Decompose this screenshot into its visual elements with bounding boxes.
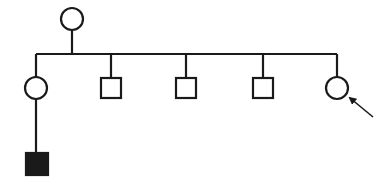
pedigree-diagram: [0, 0, 391, 186]
individual-II-3-male: [176, 78, 196, 98]
individual-II-1-female: [25, 77, 47, 99]
individual-II-5-female-proband: [326, 77, 348, 99]
proband-arrow-icon: [350, 98, 373, 117]
individual-III-1-male-affected: [26, 153, 48, 175]
individual-I-1-female: [61, 8, 83, 30]
individual-II-4-male: [253, 78, 273, 98]
individual-II-2-male: [101, 78, 121, 98]
